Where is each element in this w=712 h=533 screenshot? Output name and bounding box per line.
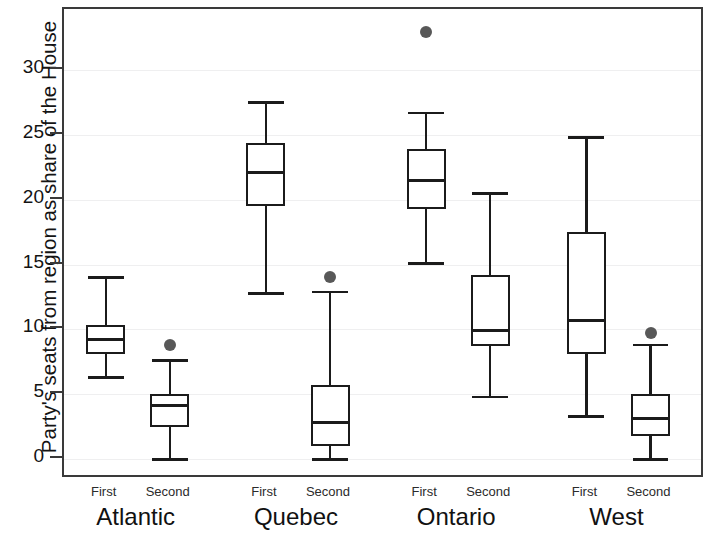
x-sublabel-west-second: Second <box>609 484 689 499</box>
box-plot-west-second <box>64 9 701 475</box>
x-sublabel-ontario-second: Second <box>448 484 528 499</box>
x-sublabel-quebec-second: Second <box>288 484 368 499</box>
iqr-box <box>631 394 670 435</box>
median-line <box>631 417 670 420</box>
whisker-lower-stem <box>649 436 651 459</box>
x-sublabel-atlantic-second: Second <box>128 484 208 499</box>
y-tick <box>50 197 62 199</box>
whisker-upper-cap <box>633 344 669 347</box>
y-tick <box>50 391 62 393</box>
y-tick-label: 10 <box>0 315 44 337</box>
boxplot-figure: Party's seats from region as share of th… <box>0 0 712 533</box>
y-tick <box>50 456 62 458</box>
y-tick <box>50 132 62 134</box>
x-group-label-atlantic: Atlantic <box>56 503 216 531</box>
whisker-lower-cap <box>633 458 669 461</box>
plot-area <box>62 7 703 477</box>
x-group-label-quebec: Quebec <box>216 503 376 531</box>
y-tick-label: 25 <box>0 121 44 143</box>
x-group-label-ontario: Ontario <box>376 503 536 531</box>
y-tick <box>50 67 62 69</box>
y-tick-label: 15 <box>0 251 44 273</box>
y-tick-label: 20 <box>0 186 44 208</box>
y-tick-label: 5 <box>0 380 44 402</box>
y-tick-label: 30 <box>0 56 44 78</box>
y-tick-label: 0 <box>0 445 44 467</box>
box-series <box>64 9 701 475</box>
outlier-point <box>645 327 657 339</box>
whisker-upper-stem <box>649 345 651 394</box>
x-group-label-west: West <box>536 503 696 531</box>
y-tick <box>50 262 62 264</box>
y-tick <box>50 326 62 328</box>
